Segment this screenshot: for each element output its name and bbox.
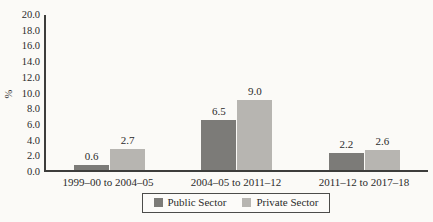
bar-column: 6.5	[201, 15, 236, 170]
y-tick-label: 4.0	[27, 135, 40, 146]
x-category-label: 2011–12 to 2017–18	[300, 176, 428, 189]
bar-group: 2.22.6	[301, 15, 428, 170]
bar-private-sector	[365, 150, 400, 170]
bar-public-sector	[201, 120, 236, 170]
bar-value-label: 2.7	[121, 135, 135, 146]
legend: Public SectorPrivate Sector	[142, 193, 331, 213]
x-axis-category-labels: 1999–00 to 2004–052004–05 to 2011–122011…	[44, 176, 428, 189]
y-axis-tick-labels: 20.018.016.014.012.010.08.06.04.02.00.0	[0, 15, 40, 172]
y-tick-label: 6.0	[27, 120, 40, 131]
y-tick-label: 8.0	[27, 104, 40, 115]
y-tick-label: 14.0	[22, 57, 40, 68]
y-tick-label: 16.0	[22, 41, 40, 52]
x-category-label: 2004–05 to 2011–12	[172, 176, 300, 189]
bar-value-label: 2.2	[339, 139, 353, 150]
bar-public-sector	[329, 153, 364, 170]
y-tick-label: 12.0	[22, 73, 40, 84]
bar-column: 2.6	[365, 15, 400, 170]
bar-public-sector	[74, 165, 109, 170]
y-tick-label: 2.0	[27, 151, 40, 162]
bar-private-sector	[110, 149, 145, 170]
bar-value-label: 2.6	[375, 136, 389, 147]
bar-value-label: 6.5	[212, 106, 226, 117]
legend-item: Private Sector	[242, 197, 318, 208]
bar-group: 6.59.0	[173, 15, 300, 170]
bar-chart-figure: % 20.018.016.014.012.010.08.06.04.02.00.…	[0, 0, 433, 222]
legend-wrapper: Public SectorPrivate Sector	[44, 193, 428, 213]
bar-group: 0.62.7	[46, 15, 173, 170]
x-category-label: 1999–00 to 2004–05	[44, 176, 172, 189]
bar-column: 2.7	[110, 15, 145, 170]
y-tick-label: 20.0	[22, 10, 40, 21]
bar-private-sector	[237, 100, 272, 170]
plot-area: 0.62.76.59.02.22.6	[44, 15, 428, 172]
y-tick-label: 10.0	[22, 88, 40, 99]
legend-swatch-icon	[242, 198, 251, 207]
bar-column: 2.2	[329, 15, 364, 170]
y-tick-label: 18.0	[22, 25, 40, 36]
legend-label: Private Sector	[256, 197, 318, 208]
legend-label: Public Sector	[168, 197, 227, 208]
legend-item: Public Sector	[154, 197, 227, 208]
y-tick-label: 0.0	[27, 167, 40, 178]
bar-value-label: 0.6	[85, 151, 99, 162]
bar-value-label: 9.0	[248, 86, 262, 97]
bar-column: 9.0	[237, 15, 272, 170]
legend-swatch-icon	[154, 198, 163, 207]
bar-column: 0.6	[74, 15, 109, 170]
